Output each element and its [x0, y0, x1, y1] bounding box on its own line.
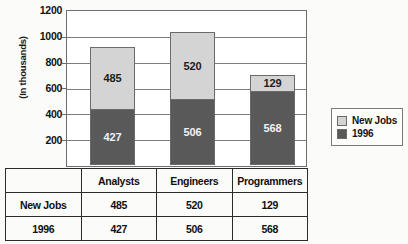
- y-tick-1000: 1000: [22, 30, 62, 42]
- legend-item-1996[interactable]: 1996: [337, 128, 398, 139]
- data-table: Analysts Engineers Programmers New Jobs …: [5, 168, 308, 239]
- bar-analysts-1996-value: 427: [104, 131, 122, 143]
- table-row: 1996 427 506 568: [6, 217, 308, 241]
- bar-programmers-new-jobs[interactable]: 129: [250, 75, 295, 92]
- table-header-programmers: Programmers: [232, 169, 308, 193]
- bar-programmers-new-jobs-value: 129: [264, 77, 282, 89]
- chart-figure: (In thousands) 1200 1000 800 600 400 200…: [0, 0, 408, 244]
- table-rowlabel-1996: 1996: [6, 217, 82, 241]
- table-cell-1996-programmers: 568: [232, 217, 308, 241]
- table-header-engineers: Engineers: [157, 169, 233, 193]
- y-tick-200: 200: [22, 134, 62, 146]
- table-cell-1996-analysts: 427: [81, 217, 157, 241]
- bar-engineers-new-jobs[interactable]: 520: [170, 32, 215, 100]
- table-rowlabel-new-jobs: New Jobs: [6, 193, 82, 217]
- table-cell-new-jobs-analysts: 485: [81, 193, 157, 217]
- table-cell-new-jobs-programmers: 129: [232, 193, 308, 217]
- table-corner-cell: [6, 169, 82, 193]
- table-header-analysts: Analysts: [81, 169, 157, 193]
- bar-engineers-1996[interactable]: 506: [170, 99, 215, 165]
- y-tick-400: 400: [22, 108, 62, 120]
- chart-legend: New Jobs 1996: [331, 108, 403, 146]
- table-cell-1996-engineers: 506: [157, 217, 233, 241]
- table-header-row: Analysts Engineers Programmers: [6, 169, 308, 193]
- legend-swatch-1996-icon: [337, 129, 347, 139]
- bar-analysts[interactable]: 485 427: [90, 47, 135, 166]
- bar-engineers[interactable]: 520 506: [170, 32, 215, 166]
- plot-area: 485 427 520 506 129 568: [66, 10, 307, 167]
- bar-programmers[interactable]: 129 568: [250, 75, 295, 166]
- legend-label-new-jobs: New Jobs: [352, 115, 397, 126]
- bar-engineers-new-jobs-value: 520: [184, 60, 202, 72]
- table-row: New Jobs 485 520 129: [6, 193, 308, 217]
- y-tick-600: 600: [22, 82, 62, 94]
- table-cell-new-jobs-engineers: 520: [157, 193, 233, 217]
- legend-swatch-new-jobs-icon: [337, 116, 347, 126]
- y-axis-tick-labels: 1200 1000 800 600 400 200: [18, 0, 62, 175]
- bar-engineers-1996-value: 506: [184, 126, 202, 138]
- legend-label-1996: 1996: [352, 128, 373, 139]
- bar-analysts-1996[interactable]: 427: [90, 109, 135, 165]
- bar-programmers-1996[interactable]: 568: [250, 91, 295, 165]
- y-tick-800: 800: [22, 56, 62, 68]
- legend-item-new-jobs[interactable]: New Jobs: [337, 115, 398, 126]
- bar-analysts-new-jobs[interactable]: 485: [90, 47, 135, 111]
- bar-analysts-new-jobs-value: 485: [104, 72, 122, 84]
- bar-programmers-1996-value: 568: [264, 122, 282, 134]
- y-tick-1200: 1200: [22, 4, 62, 16]
